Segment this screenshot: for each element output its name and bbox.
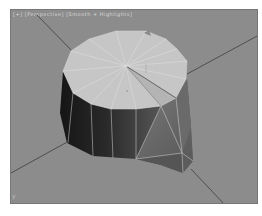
- 3d-viewport[interactable]: [+] [Perspective] [Smooth + Highlights]: [10, 9, 258, 204]
- scene-render[interactable]: [11, 10, 258, 204]
- axis-tripod-icon: y: [12, 192, 16, 199]
